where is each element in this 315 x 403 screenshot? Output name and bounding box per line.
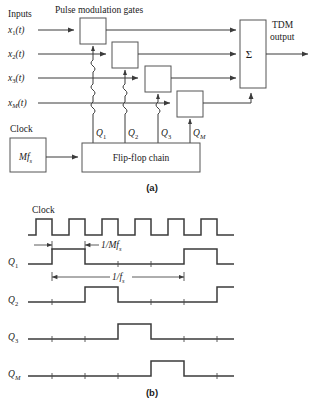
panel-b: Clock 1/Mfs Q1 [8,205,234,398]
wave-label-q3: Q3 [8,332,18,344]
tdm-figure-svg: Pulse modulation gates Inputs x1(t) x2(t… [0,0,315,403]
frame-label: 1/fs [112,272,125,284]
gate-box-2 [112,42,138,68]
q3-control-wire [156,94,160,143]
q-label-m: QM [193,128,206,140]
wave-label-q1: Q1 [8,257,18,269]
q-label-3: Q3 [161,128,171,140]
summer-symbol: Σ [246,48,252,60]
gate-box-4 [177,91,203,117]
q-labels: Q1 Q2 Q3 QM [96,128,206,140]
input-signal-labels: x1(t) x2(t) x3(t) xM(t) [7,25,27,109]
q2-waveform [28,287,234,302]
q1-waveform [28,249,234,264]
q2-control-wire [123,70,127,143]
tdm-output-label-2: output [270,32,295,42]
inputs-label: Inputs [8,9,32,19]
clock-label-a: Clock [10,124,33,134]
q-label-1: Q1 [96,128,106,140]
period-label: 1/Mfs [101,240,122,252]
input-label-xm: xM(t) [7,98,27,109]
qm-waveform [28,361,234,376]
period-annotation: 1/Mfs [34,240,122,252]
panel-a: Pulse modulation gates Inputs x1(t) x2(t… [7,5,308,193]
q3-waveform [28,324,234,339]
gate-output-4 [203,93,251,103]
gates-title: Pulse modulation gates [55,5,143,15]
q1-control-wire [91,46,95,143]
summer-block [240,20,266,88]
gate-box-3 [145,66,171,92]
panel-b-caption: (b) [146,387,158,398]
wave-label-qm: QM [8,369,21,381]
gate-box-1 [80,18,106,44]
q-label-2: Q2 [128,128,138,140]
flipflop-chain-label: Flip-flop chain [113,153,170,163]
input-label-x3: x3(t) [7,73,24,84]
clock-waveform [28,219,234,235]
panel-a-caption: (a) [146,182,158,193]
wave-label-q2: Q2 [8,295,18,307]
input-label-x2: x2(t) [7,49,24,60]
frame-annotation: 1/fs [52,272,184,284]
figure-root: Pulse modulation gates Inputs x1(t) x2(t… [0,0,315,403]
input-label-x1: x1(t) [7,25,24,36]
clock-label-b: Clock [32,205,55,215]
tdm-output-label-1: TDM [272,20,294,30]
